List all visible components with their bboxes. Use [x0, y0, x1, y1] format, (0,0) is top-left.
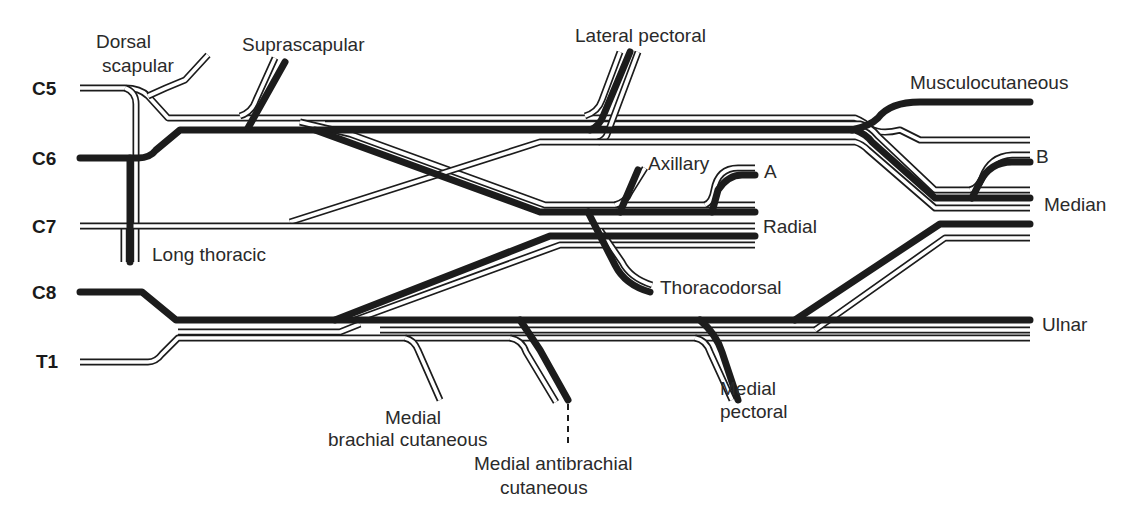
- marker-a-label: A: [764, 161, 777, 182]
- dorsal-scapular-label-1: Dorsal: [96, 31, 151, 52]
- root-c7-label: C7: [32, 216, 56, 237]
- c8-trunk: [80, 292, 1030, 320]
- medial-brachial-cutaneous-label-1: Medial: [385, 407, 441, 428]
- root-c8-label: C8: [32, 282, 56, 303]
- marker-b-label: B: [1036, 146, 1049, 167]
- lateral-pectoral-label: Lateral pectoral: [575, 25, 706, 46]
- brachial-plexus-diagram: C5 C6 C7 C8 T1 Dorsal scapular Suprascap…: [0, 0, 1138, 520]
- median-label: Median: [1044, 194, 1106, 215]
- dorsal-scapular-label-2: scapular: [102, 55, 174, 76]
- medial-brachial-cutaneous-label-2: brachial cutaneous: [328, 429, 488, 450]
- ulnar-label: Ulnar: [1042, 314, 1088, 335]
- root-c5-label: C5: [32, 78, 57, 99]
- musculocutaneous-label: Musculocutaneous: [910, 72, 1068, 93]
- outlined-fibers: [80, 52, 1030, 402]
- thoracodorsal-label: Thoracodorsal: [660, 277, 781, 298]
- medial-pectoral-label-2: pectoral: [720, 401, 788, 422]
- c6-to-musculocutaneous: [852, 102, 1030, 130]
- root-t1-label: T1: [36, 351, 59, 372]
- t1-trunk: [80, 338, 1030, 362]
- root-c6-label: C6: [32, 148, 56, 169]
- medial-pectoral-label-1: Medial: [720, 378, 776, 399]
- root-labels: C5 C6 C7 C8 T1: [32, 78, 59, 372]
- long-thoracic-label: Long thoracic: [152, 244, 266, 265]
- axillary-label: Axillary: [648, 153, 710, 174]
- medial-antibrachial-cutaneous-label-2: cutaneous: [500, 477, 588, 498]
- suprascapular-label: Suprascapular: [242, 34, 365, 55]
- radial-label: Radial: [763, 216, 817, 237]
- medial-antibrachial-cutaneous-label-1: Medial antibrachial: [474, 453, 632, 474]
